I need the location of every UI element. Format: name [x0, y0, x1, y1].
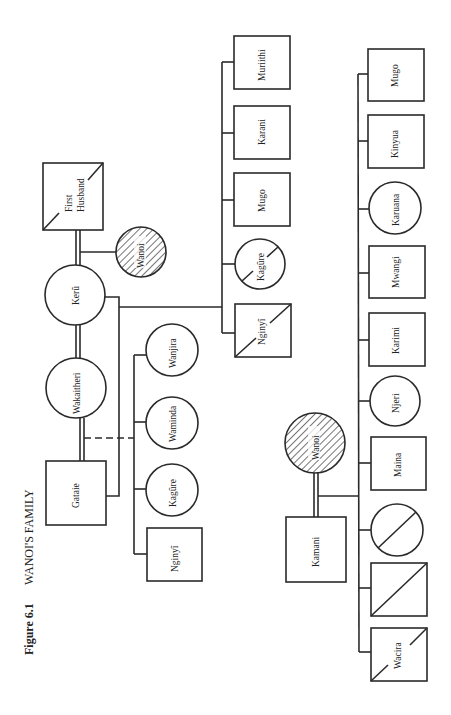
gataie-label: Gataie	[71, 483, 81, 508]
wanoi-child-1: Kinyua	[368, 115, 424, 168]
person-wakaitheri: Wakaitheri	[46, 358, 106, 418]
wanoi-child-9: Wacira	[371, 628, 427, 681]
wanoi-child-8-deceased	[371, 563, 427, 616]
child-label: Karimi	[391, 327, 401, 354]
person-wanoi-top: Wanoi	[116, 227, 166, 277]
child-label: Waminda	[168, 405, 178, 442]
child-label: Muriithi	[257, 49, 267, 81]
child-label: Karani	[257, 119, 267, 145]
child-label: Mugo	[257, 189, 267, 212]
wanoi-child-4: Karimi	[369, 313, 425, 366]
child-label: Wacira	[393, 642, 403, 669]
child-label: Kagũre	[256, 253, 266, 281]
child-label: Nginyĩ	[170, 545, 180, 572]
wanoi-child-0: Mugo	[368, 49, 424, 101]
child-label: Njeri	[391, 393, 401, 413]
wanoi-children-sibling-line	[358, 74, 359, 652]
keru-child-3: Kagũre	[235, 239, 285, 289]
wanoi-top-label: Wanoi	[136, 243, 146, 268]
wanoi-child-6: Maina	[371, 437, 426, 490]
keru-child-1: Karani	[234, 106, 290, 159]
wanoi-bottom-label: Wanoi	[311, 435, 321, 460]
child-label: Kagũre	[168, 479, 178, 507]
person-keru: Kerũ	[45, 265, 105, 325]
wanoi-child-3: Mwangi	[369, 246, 425, 298]
wanoi-child-7-deceased	[371, 504, 423, 556]
child-label: Maina	[393, 452, 403, 477]
keru-child-0: Muriithi	[234, 36, 290, 89]
wanoi-child-5: Njeri	[370, 376, 420, 426]
keru-child-2: Mugo	[234, 173, 290, 226]
keru-gataie-connector	[105, 297, 119, 496]
wakaitheri-label: Wakaitheri	[72, 372, 82, 414]
gataie-child-2: Kagũre	[146, 464, 198, 516]
child-label: Karuana	[391, 193, 401, 226]
figure-title: Figure 6.1 WANOI'S FAMILY	[22, 489, 36, 655]
kinship-diagram: Figure 6.1 WANOI'S FAMILY First	[0, 0, 451, 715]
keru-child-4: Nginyĩ	[235, 304, 291, 357]
person-gataie: Gataie	[46, 461, 106, 525]
figure-number: Figure 6.1	[22, 603, 36, 655]
person-first-husband: First Husband	[43, 163, 103, 230]
child-label: Nginyĩ	[257, 318, 267, 345]
first-husband-label-1: First	[64, 194, 74, 212]
child-label: Mugo	[390, 64, 400, 87]
keru-label: Kerũ	[71, 286, 81, 305]
gataie-child-1: Waminda	[146, 397, 198, 449]
first-husband-label-2: Husband	[76, 178, 86, 212]
person-wanoi-bottom: Wanoi	[285, 413, 345, 473]
wanoi-child-2: Karuana	[369, 182, 421, 234]
person-kamani: Kamani	[286, 517, 346, 582]
gataie-child-0: Wanjira	[146, 324, 198, 376]
kamani-label: Kamani	[311, 537, 321, 567]
gataie-child-3: Nginyĩ	[147, 528, 202, 581]
child-label: Wanjira	[168, 337, 178, 368]
figure-title-text: WANOI'S FAMILY	[22, 489, 36, 585]
child-label: Mwangi	[391, 256, 401, 288]
child-label: Kinyua	[390, 129, 400, 158]
